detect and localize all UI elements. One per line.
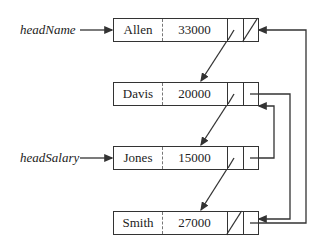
node-salary: 20000 — [162, 83, 228, 105]
salary-next-pointer — [243, 19, 259, 41]
name-next-pointer — [227, 19, 244, 41]
node-name: Allen — [114, 19, 163, 41]
salary-next-pointer — [243, 212, 259, 234]
node-jones: Jones 15000 — [113, 146, 259, 170]
node-salary: 33000 — [162, 19, 228, 41]
node-allen: Allen 33000 — [113, 18, 259, 42]
salary-next-pointer — [243, 83, 259, 105]
node-name: Davis — [114, 83, 163, 105]
name-next-pointer — [227, 83, 244, 105]
head-salary-label: headSalary — [20, 150, 79, 166]
node-salary: 27000 — [162, 212, 228, 234]
node-salary: 15000 — [162, 147, 228, 169]
node-davis: Davis 20000 — [113, 82, 259, 106]
node-name: Smith — [114, 212, 163, 234]
head-name-label: headName — [20, 22, 76, 38]
node-smith: Smith 27000 — [113, 211, 259, 235]
name-next-pointer — [227, 212, 244, 234]
salary-next-pointer — [243, 147, 259, 169]
name-next-pointer — [227, 147, 244, 169]
node-name: Jones — [114, 147, 163, 169]
